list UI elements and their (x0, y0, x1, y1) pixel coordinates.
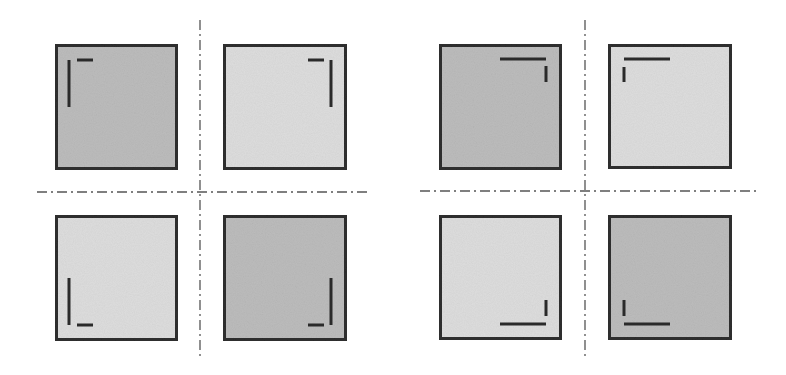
square-bottom-right (224, 216, 347, 341)
square-top-right (224, 45, 347, 170)
square-top-left (56, 45, 178, 170)
square-bottom-left (56, 216, 178, 341)
square-frame (609, 216, 732, 340)
diagram-layer (37, 20, 756, 358)
square-frame (440, 216, 562, 340)
square-frame (609, 45, 732, 169)
square-top-right (609, 45, 732, 169)
square-bottom-right (609, 216, 732, 340)
square-frame (224, 216, 347, 341)
left-panel (37, 20, 370, 358)
square-top-left (440, 45, 562, 170)
diagram-canvas (0, 0, 786, 375)
square-frame (224, 45, 347, 170)
right-panel (420, 20, 756, 358)
square-frame (440, 45, 562, 170)
square-frame (56, 216, 178, 341)
square-frame (56, 45, 178, 170)
square-bottom-left (440, 216, 562, 340)
